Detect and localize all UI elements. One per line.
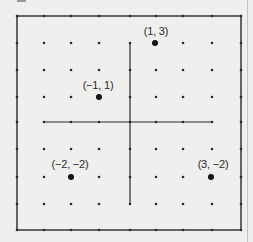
grid-dot: [43, 203, 46, 206]
grid-dot: [43, 15, 46, 18]
grid-dot: [211, 96, 214, 99]
grid-dot: [16, 121, 19, 124]
cropped-caption-mark: [17, 0, 26, 2]
coordinate-grid: [0, 0, 253, 242]
grid-dot: [211, 203, 214, 206]
plot-frame: [17, 16, 241, 230]
point-label: (1, 3): [144, 25, 168, 37]
grid-dot: [43, 69, 46, 72]
grid-dot: [98, 15, 101, 18]
grid-dot: [70, 203, 73, 206]
lattice-dots: [16, 15, 243, 232]
grid-dot: [70, 229, 73, 232]
grid-dot: [155, 15, 158, 18]
grid-dot: [16, 203, 19, 206]
plotted-points: [68, 40, 214, 180]
grid-dot: [182, 69, 185, 72]
grid-dot: [155, 229, 158, 232]
grid-dot: [211, 69, 214, 72]
grid-dot: [129, 15, 132, 18]
point-label: (−1, 1): [83, 79, 114, 91]
grid-dot: [182, 15, 185, 18]
point-label: (−2, −2): [52, 158, 89, 170]
grid-dot: [211, 148, 214, 151]
grid-dot: [240, 15, 243, 18]
grid-dot: [155, 96, 158, 99]
grid-dot: [211, 42, 214, 45]
grid-dot: [16, 96, 19, 99]
grid-dot: [16, 176, 19, 179]
grid-dot: [129, 229, 132, 232]
grid-dot: [70, 96, 73, 99]
grid-dot: [155, 148, 158, 151]
grid-dot: [16, 69, 19, 72]
data-point: [208, 174, 214, 180]
grid-dot: [43, 176, 46, 179]
data-point: [68, 174, 74, 180]
grid-dot: [182, 96, 185, 99]
grid-dot: [16, 148, 19, 151]
grid-dot: [98, 42, 101, 45]
data-point: [96, 94, 102, 100]
grid-dot: [240, 69, 243, 72]
grid-dot: [98, 69, 101, 72]
grid-dot: [98, 229, 101, 232]
grid-dot: [182, 148, 185, 151]
grid-dot: [43, 148, 46, 151]
grid-dot: [240, 42, 243, 45]
grid-dot: [240, 96, 243, 99]
grid-dot: [182, 203, 185, 206]
grid-dot: [70, 15, 73, 18]
grid-dot: [16, 229, 19, 232]
grid-dot: [98, 203, 101, 206]
grid-dot: [98, 148, 101, 151]
grid-dot: [16, 42, 19, 45]
grid-dot: [240, 176, 243, 179]
grid-dot: [70, 69, 73, 72]
grid-dot: [240, 148, 243, 151]
grid-dot: [70, 42, 73, 45]
page-edge: [247, 0, 248, 242]
grid-dot: [182, 42, 185, 45]
grid-dot: [240, 203, 243, 206]
grid-dot: [211, 229, 214, 232]
grid-dot: [155, 176, 158, 179]
grid-dot: [43, 96, 46, 99]
grid-dot: [43, 229, 46, 232]
grid-dot: [240, 229, 243, 232]
data-point: [152, 40, 158, 46]
grid-dot: [155, 203, 158, 206]
grid-dot: [155, 69, 158, 72]
point-label: (3, −2): [198, 158, 229, 170]
grid-dot: [182, 176, 185, 179]
grid-dot: [240, 121, 243, 124]
grid-dot: [211, 15, 214, 18]
grid-dot: [182, 229, 185, 232]
grid-dot: [70, 148, 73, 151]
grid-dot: [16, 15, 19, 18]
grid-dot: [43, 42, 46, 45]
grid-dot: [98, 176, 101, 179]
